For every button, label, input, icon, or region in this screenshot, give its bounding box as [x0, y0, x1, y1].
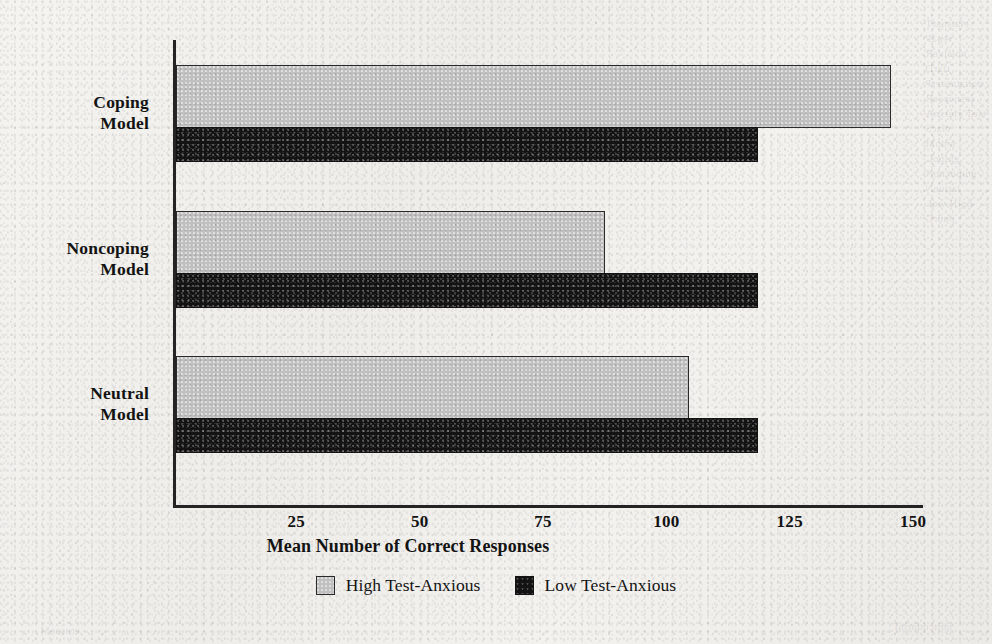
x-axis-line — [173, 505, 923, 508]
bar-coping-model-high-test-anxious — [176, 65, 891, 128]
x-tick-label-50: 50 — [390, 512, 450, 532]
legend-label-high-test-anxious: High Test-Anxious — [346, 575, 481, 596]
legend-swatch-low-icon — [515, 576, 534, 595]
bar-neutral-model-high-test-anxious — [176, 356, 689, 419]
category-label-line1: Noncoping — [0, 238, 149, 259]
category-label-neutral-model: Neutral Model — [0, 383, 149, 425]
x-axis-title: Mean Number of Correct Responses — [173, 536, 643, 557]
x-tick-label-75: 75 — [513, 512, 573, 532]
x-tick-label-25: 25 — [266, 512, 326, 532]
x-tick-label-100: 100 — [636, 512, 696, 532]
plot-area — [173, 40, 923, 508]
legend-swatch-high-icon — [316, 576, 335, 595]
category-label-line2: Model — [0, 404, 149, 425]
category-label-noncoping-model: Noncoping Model — [0, 238, 149, 280]
x-tick-label-125: 125 — [760, 512, 820, 532]
category-label-coping-model: Coping Model — [0, 92, 149, 134]
chart-legend: High Test-Anxious Low Test-Anxious — [0, 575, 992, 596]
category-label-line2: Model — [0, 113, 149, 134]
category-label-line2: Model — [0, 259, 149, 280]
bar-neutral-model-low-test-anxious — [176, 418, 758, 453]
bar-noncoping-model-high-test-anxious — [176, 211, 605, 274]
x-tick-label-150: 150 — [883, 512, 943, 532]
legend-item-high-test-anxious: High Test-Anxious — [316, 575, 481, 596]
bar-coping-model-low-test-anxious — [176, 127, 758, 162]
bar-chart: Coping Model Noncoping Model Neutral Mod… — [0, 0, 992, 644]
legend-label-low-test-anxious: Low Test-Anxious — [545, 575, 677, 596]
legend-item-low-test-anxious: Low Test-Anxious — [515, 575, 677, 596]
category-label-line1: Coping — [0, 92, 149, 113]
category-label-line1: Neutral — [0, 383, 149, 404]
bar-noncoping-model-low-test-anxious — [176, 273, 758, 308]
